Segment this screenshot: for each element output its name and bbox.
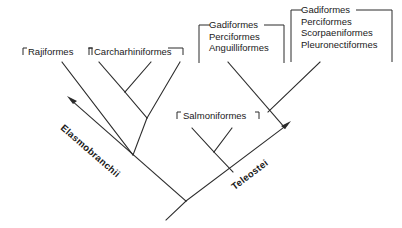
taxon-label: Anguilliformes bbox=[209, 42, 269, 54]
arrowhead-elasmobranchii bbox=[67, 96, 77, 104]
branch-root-stem bbox=[166, 201, 186, 220]
branch-salmoniformes-stem bbox=[214, 152, 233, 172]
taxon-label: Carcharhiniformes bbox=[94, 46, 172, 58]
branch-carcharhini-a bbox=[99, 62, 125, 92]
branch-salmoniformes-b bbox=[214, 128, 232, 152]
branch-carcharhini-b bbox=[125, 62, 151, 92]
taxon-label: Perciformes bbox=[209, 31, 269, 43]
taxon-label: Scorpaeniformes bbox=[301, 27, 378, 39]
taxon-label: Pleuronectiformes bbox=[301, 39, 378, 51]
group-salmoniformes: Salmoniformes bbox=[176, 110, 268, 130]
taxon-label: Perciformes bbox=[301, 16, 378, 28]
taxon-label: Rajiformes bbox=[28, 46, 73, 58]
group-carcharhiniformes: Carcharhiniformes bbox=[88, 46, 192, 66]
branch-carcharhini-stem bbox=[133, 118, 147, 155]
branch-salmoniformes-a bbox=[192, 128, 214, 152]
taxa-list: Gadiformes Perciformes Anguilliformes bbox=[209, 19, 269, 54]
taxon-label: Gadiformes bbox=[209, 19, 269, 31]
branch-gadiformes-group-b bbox=[268, 62, 320, 112]
taxon-label: Gadiformes bbox=[301, 4, 378, 16]
cladogram-figure: Rajiformes Carcharhiniformes Salmoniform… bbox=[0, 0, 402, 228]
taxa-list: Gadiformes Perciformes Scorpaeniformes P… bbox=[301, 4, 378, 50]
taxon-label: Salmoniformes bbox=[183, 110, 246, 122]
branch-carcharhini-inner-stem bbox=[125, 92, 147, 118]
